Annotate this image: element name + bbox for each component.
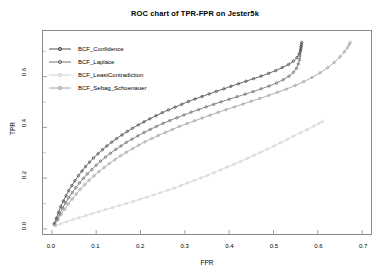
legend-item-BCF_Confidence: BCF_Confidence [48,42,198,55]
x-tick-label: 0.1 [84,243,108,249]
y-tick-label: 0.6 [21,62,27,82]
legend-key-icon [48,83,72,93]
x-tick-label: 0.2 [128,243,152,249]
roc-chart-page: ROC chart of TPR-FPR on Jester5k 0.00.10… [0,0,390,278]
chart-legend: BCF_ConfidenceBCF_LaplaceBCF_LeastContra… [48,42,198,94]
x-tick-label: 0.7 [351,243,375,249]
data-point [321,120,323,122]
x-tick-label: 0.3 [173,243,197,249]
x-axis-title: FPR [42,259,372,266]
x-tick-label: 0.6 [306,243,330,249]
y-tick-label: 0.0 [21,216,27,236]
legend-item-BCF_Laplace: BCF_Laplace [48,55,198,68]
chart-title: ROC chart of TPR-FPR on Jester5k [0,9,390,18]
legend-key-icon [48,44,72,54]
legend-label: BCF_Laplace [78,59,114,65]
legend-key-icon [48,70,72,80]
legend-key-icon [48,57,72,67]
legend-label: BCF_LeastContradiction [78,72,143,78]
y-tick-label: 0.4 [21,113,27,133]
legend-label: BCF_Sebag_Schoenauer [78,85,146,91]
series-BCF_LeastContradiction [54,120,323,227]
x-tick-label: 0.0 [39,243,63,249]
y-tick-label: 0.2 [21,165,27,185]
x-tick-label: 0.4 [217,243,241,249]
legend-item-BCF_LeastContradiction: BCF_LeastContradiction [48,68,198,81]
legend-label: BCF_Confidence [78,46,124,52]
x-tick-label: 0.5 [262,243,286,249]
legend-item-BCF_Sebag_Schoenauer: BCF_Sebag_Schoenauer [48,81,198,94]
y-axis-title: TPR [9,109,16,149]
series-line [55,122,322,226]
